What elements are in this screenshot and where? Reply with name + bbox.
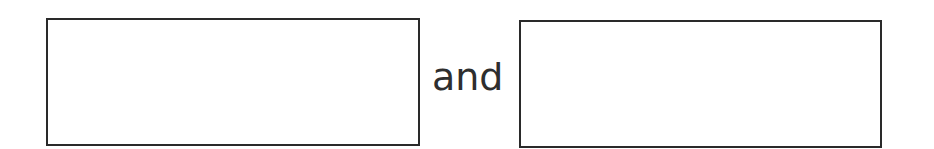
- connector-word: and: [432, 52, 504, 102]
- left-answer-box[interactable]: [46, 18, 420, 146]
- right-answer-box[interactable]: [519, 20, 882, 148]
